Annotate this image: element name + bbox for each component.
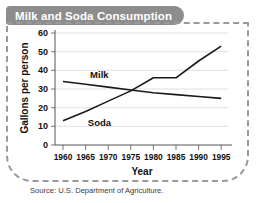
y-tick-50: 50 xyxy=(38,47,48,57)
gridlines xyxy=(55,33,228,126)
x-tick-1985: 1985 xyxy=(167,152,186,162)
y-tick-40: 40 xyxy=(38,65,48,75)
x-tick-1975: 1975 xyxy=(121,152,140,162)
y-axis xyxy=(51,30,55,145)
y-tick-60: 60 xyxy=(38,28,48,38)
plot-area: 60 50 40 30 20 10 0 Gallons per person xyxy=(0,0,261,203)
x-tick-1990: 1990 xyxy=(189,152,208,162)
line-chart-svg: 60 50 40 30 20 10 0 Gallons per person xyxy=(0,0,261,203)
x-tick-1970: 1970 xyxy=(99,152,118,162)
x-axis xyxy=(55,145,232,150)
x-axis-title: Year xyxy=(131,166,152,177)
x-tick-1980: 1980 xyxy=(144,152,163,162)
y-axis-title: Gallons per person xyxy=(19,42,30,133)
y-tick-20: 20 xyxy=(38,103,48,113)
y-axis-tick-labels: 60 50 40 30 20 10 0 xyxy=(38,28,48,150)
y-tick-0: 0 xyxy=(43,140,48,150)
x-tick-1995: 1995 xyxy=(212,152,231,162)
y-tick-30: 30 xyxy=(38,84,48,94)
x-tick-1960: 1960 xyxy=(54,152,73,162)
chart-figure: Milk and Soda Consumption xyxy=(0,0,261,203)
x-axis-tick-labels: 1960 1965 1970 1975 1980 1985 1990 1995 xyxy=(54,152,231,162)
y-tick-10: 10 xyxy=(38,121,48,131)
x-tick-1965: 1965 xyxy=(76,152,95,162)
series-label-milk: Milk xyxy=(90,69,109,80)
series-label-soda: Soda xyxy=(88,117,112,128)
source-caption: Source: U.S. Department of Agriculture. xyxy=(30,186,163,195)
series-line-soda xyxy=(63,46,221,121)
